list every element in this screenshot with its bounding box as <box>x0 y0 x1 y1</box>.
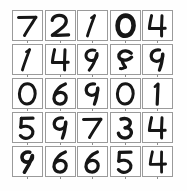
axis-tick-mark <box>125 177 126 179</box>
handwritten-digit-glyph <box>78 45 107 74</box>
digit-image-1 <box>142 78 173 109</box>
axis-tick-mark <box>157 109 158 111</box>
axis-tick-mark <box>60 75 61 77</box>
digit-image-4 <box>142 10 173 41</box>
digit-cell <box>45 78 78 112</box>
digit-cell <box>77 10 110 44</box>
handwritten-digit-glyph <box>143 45 172 74</box>
handwritten-digit-glyph <box>46 11 75 40</box>
digit-image-6 <box>45 78 76 109</box>
digit-image-0 <box>110 10 141 41</box>
digit-image-6 <box>77 146 108 177</box>
axis-tick-mark <box>125 109 126 111</box>
axis-tick-mark <box>157 143 158 145</box>
digit-grid-figure <box>0 0 187 191</box>
digit-image-9 <box>77 44 108 75</box>
handwritten-digit-glyph <box>78 79 107 108</box>
handwritten-digit-glyph <box>13 11 42 40</box>
axis-tick-mark <box>27 41 28 43</box>
digit-image-4 <box>142 112 173 143</box>
digit-cell <box>142 10 175 44</box>
axis-tick-mark <box>92 41 93 43</box>
digit-cell <box>12 44 45 78</box>
digit-cell <box>45 10 78 44</box>
handwritten-digit-glyph <box>111 147 140 176</box>
digit-cell <box>12 146 45 180</box>
handwritten-digit-glyph <box>46 45 75 74</box>
digit-image-4 <box>45 44 76 75</box>
axis-tick-mark <box>27 177 28 179</box>
digit-cell <box>12 112 45 146</box>
handwritten-digit-glyph <box>111 11 140 40</box>
digit-cell <box>12 10 45 44</box>
digit-image-9 <box>45 112 76 143</box>
handwritten-digit-glyph <box>143 113 172 142</box>
digit-cell <box>77 78 110 112</box>
digit-cell <box>77 44 110 78</box>
digit-image-0 <box>110 78 141 109</box>
axis-tick-mark <box>125 41 126 43</box>
image-grid <box>12 10 175 180</box>
digit-image-6 <box>45 146 76 177</box>
handwritten-digit-glyph <box>111 45 140 74</box>
handwritten-digit-glyph <box>46 79 75 108</box>
axis-tick-mark <box>60 41 61 43</box>
axis-tick-mark <box>92 143 93 145</box>
axis-tick-mark <box>92 109 93 111</box>
axis-tick-mark <box>60 177 61 179</box>
handwritten-digit-glyph <box>143 147 172 176</box>
axis-tick-mark <box>27 75 28 77</box>
handwritten-digit-glyph <box>111 79 140 108</box>
handwritten-digit-glyph <box>111 113 140 142</box>
digit-image-1 <box>12 44 43 75</box>
digit-cell <box>45 112 78 146</box>
digit-image-5 <box>110 44 141 75</box>
axis-tick-mark <box>157 177 158 179</box>
handwritten-digit-glyph <box>13 113 42 142</box>
digit-cell <box>45 44 78 78</box>
digit-image-4 <box>142 146 173 177</box>
digit-cell <box>142 146 175 180</box>
digit-cell <box>110 44 143 78</box>
digit-image-0 <box>12 78 43 109</box>
axis-tick-mark <box>157 41 158 43</box>
digit-cell <box>110 10 143 44</box>
digit-cell <box>12 78 45 112</box>
digit-cell <box>45 146 78 180</box>
digit-cell <box>77 112 110 146</box>
handwritten-digit-glyph <box>78 113 107 142</box>
digit-image-7 <box>77 112 108 143</box>
handwritten-digit-glyph <box>143 11 172 40</box>
digit-cell <box>142 44 175 78</box>
digit-image-7 <box>12 10 43 41</box>
handwritten-digit-glyph <box>46 113 75 142</box>
digit-image-2 <box>45 10 76 41</box>
axis-tick-mark <box>157 75 158 77</box>
handwritten-digit-glyph <box>78 11 107 40</box>
digit-image-5 <box>110 146 141 177</box>
axis-tick-mark <box>92 75 93 77</box>
handwritten-digit-glyph <box>78 147 107 176</box>
digit-image-5 <box>12 112 43 143</box>
digit-cell <box>77 146 110 180</box>
digit-cell <box>110 112 143 146</box>
digit-cell <box>142 112 175 146</box>
digit-cell <box>110 146 143 180</box>
digit-cell <box>142 78 175 112</box>
axis-tick-mark <box>27 109 28 111</box>
handwritten-digit-glyph <box>13 45 42 74</box>
axis-tick-mark <box>125 75 126 77</box>
handwritten-digit-glyph <box>13 79 42 108</box>
digit-image-3 <box>110 112 141 143</box>
axis-tick-mark <box>27 143 28 145</box>
axis-tick-mark <box>92 177 93 179</box>
axis-tick-mark <box>60 143 61 145</box>
digit-image-1 <box>77 10 108 41</box>
axis-tick-mark <box>60 109 61 111</box>
handwritten-digit-glyph <box>143 79 172 108</box>
handwritten-digit-glyph <box>13 147 42 176</box>
digit-image-9 <box>142 44 173 75</box>
handwritten-digit-glyph <box>46 147 75 176</box>
axis-tick-mark <box>125 143 126 145</box>
digit-cell <box>110 78 143 112</box>
